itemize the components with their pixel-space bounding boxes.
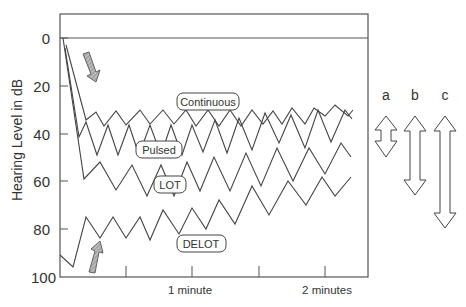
y-tick-100: 100 — [31, 269, 56, 286]
label-lot: LOT — [154, 176, 186, 193]
bracket-arrow-c-icon — [434, 116, 456, 228]
x-label-1-minute: 1 minute — [168, 284, 212, 296]
y-tick-60: 60 — [33, 173, 50, 190]
y-axis-labels: 0 20 40 60 80 100 — [31, 30, 56, 286]
svg-text:DELOT: DELOT — [183, 238, 220, 250]
y-tick-40: 40 — [33, 126, 50, 143]
y-axis-title: Hearing Level in dB — [9, 79, 25, 201]
bracket-label-b: b — [411, 87, 419, 103]
hearing-threshold-chart: 0 20 40 60 80 100 Hearing Level in dB 1 … — [0, 0, 466, 307]
y-tick-80: 80 — [33, 221, 50, 238]
series-continuous-line — [66, 45, 353, 126]
svg-text:Pulsed: Pulsed — [142, 144, 176, 156]
descending-arrow-icon — [83, 52, 100, 82]
y-tick-0: 0 — [42, 30, 50, 47]
bracket-arrow-a-icon — [375, 116, 397, 157]
bracket-label-c: c — [442, 87, 449, 103]
label-pulsed: Pulsed — [136, 141, 182, 158]
series-delot-line — [60, 177, 351, 267]
x-label-2-minutes: 2 minutes — [302, 284, 352, 296]
svg-text:LOT: LOT — [159, 179, 181, 191]
svg-text:Continuous: Continuous — [180, 96, 236, 108]
ascending-arrow-icon — [89, 241, 103, 273]
bracket-arrow-b-icon — [404, 116, 426, 195]
series-lot-line — [63, 38, 351, 196]
label-delot: DELOT — [177, 235, 226, 252]
x-axis-ticks — [126, 266, 325, 277]
y-tick-20: 20 — [33, 78, 50, 95]
bracket-label-a: a — [382, 87, 390, 103]
label-continuous: Continuous — [177, 93, 239, 110]
